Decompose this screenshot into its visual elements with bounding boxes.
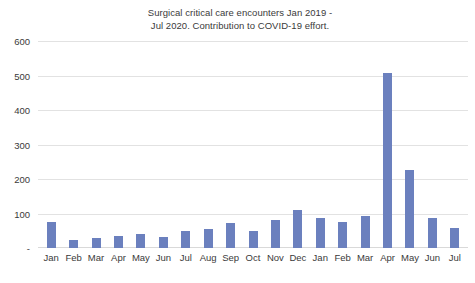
x-axis-tick-label: Aug	[197, 252, 219, 263]
bar[interactable]	[114, 236, 123, 248]
bar-slot	[85, 41, 107, 248]
x-axis-tick-label: Sep	[219, 252, 241, 263]
bar-slot	[376, 41, 398, 248]
y-axis-tick-label: -	[27, 243, 30, 254]
bar-slot	[40, 41, 62, 248]
bar[interactable]	[293, 210, 302, 248]
y-axis-tick-label: 500	[14, 70, 30, 81]
y-axis-labels: 600500400300200100-	[0, 41, 34, 248]
x-axis-tick-label: May	[130, 252, 152, 263]
x-axis-labels: JanFebMarAprMayJunJulAugSepOctNovDecJanF…	[38, 252, 468, 263]
bar[interactable]	[136, 234, 145, 248]
bar-slot	[152, 41, 174, 248]
bar[interactable]	[338, 222, 347, 248]
x-axis-tick-label: Feb	[62, 252, 84, 263]
y-axis-tick-label: 200	[14, 174, 30, 185]
bar[interactable]	[450, 228, 459, 248]
bar-slot	[197, 41, 219, 248]
bar-slot	[287, 41, 309, 248]
bar-slot	[354, 41, 376, 248]
bar[interactable]	[383, 73, 392, 248]
bar[interactable]	[69, 240, 78, 248]
bar[interactable]	[159, 237, 168, 248]
x-axis-tick-label: Jan	[40, 252, 62, 263]
bar-slot	[130, 41, 152, 248]
chart-title: Surgical critical care encounters Jan 20…	[90, 6, 390, 32]
x-axis-tick-label: Dec	[287, 252, 309, 263]
bar[interactable]	[271, 220, 280, 248]
x-axis-tick-label: Oct	[242, 252, 264, 263]
bar-slot	[62, 41, 84, 248]
bar[interactable]	[92, 238, 101, 248]
bar-slot	[309, 41, 331, 248]
bar[interactable]	[316, 218, 325, 248]
bar[interactable]	[226, 223, 235, 248]
bar-slot	[399, 41, 421, 248]
bar-slot	[107, 41, 129, 248]
x-axis-tick-label: Nov	[264, 252, 286, 263]
x-axis-tick-label: Jul	[175, 252, 197, 263]
x-axis-tick-label: May	[399, 252, 421, 263]
bar-slot	[264, 41, 286, 248]
bar[interactable]	[181, 231, 190, 248]
bar-series	[38, 41, 468, 248]
bar-slot	[331, 41, 353, 248]
bar[interactable]	[204, 229, 213, 248]
bar-slot	[421, 41, 443, 248]
bar[interactable]	[361, 216, 370, 248]
bar[interactable]	[405, 170, 414, 248]
bar-slot	[444, 41, 466, 248]
x-axis-tick-label: Apr	[376, 252, 398, 263]
bar[interactable]	[47, 222, 56, 248]
y-axis-tick-label: 100	[14, 208, 30, 219]
bar[interactable]	[249, 231, 258, 248]
x-axis-tick-label: Jan	[309, 252, 331, 263]
bar[interactable]	[428, 218, 437, 248]
bar-slot	[242, 41, 264, 248]
x-axis-tick-label: Jun	[421, 252, 443, 263]
y-axis-tick-label: 600	[14, 36, 30, 47]
x-axis-tick-label: Mar	[354, 252, 376, 263]
bar-chart: Surgical critical care encounters Jan 20…	[0, 0, 475, 283]
bar-slot	[175, 41, 197, 248]
y-axis-tick-label: 300	[14, 139, 30, 150]
x-axis-tick-label: Jun	[152, 252, 174, 263]
x-axis-tick-label: Mar	[85, 252, 107, 263]
bar-slot	[219, 41, 241, 248]
y-axis-tick-label: 400	[14, 105, 30, 116]
x-axis-tick-label: Jul	[444, 252, 466, 263]
x-axis-tick-label: Feb	[331, 252, 353, 263]
x-axis-tick-label: Apr	[107, 252, 129, 263]
